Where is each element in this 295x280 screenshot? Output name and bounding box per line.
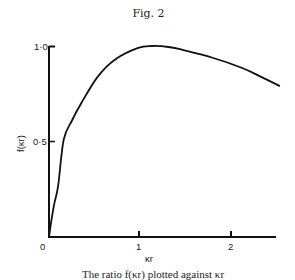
- figure-caption: The ratio f(κr) plotted against κr: [28, 268, 278, 280]
- x-tick-label-0: 0: [40, 241, 45, 252]
- x-axis-label: κr: [145, 253, 153, 264]
- y-tick-label-1: 1·0: [34, 41, 48, 52]
- y-axis-label: f(κr): [15, 135, 26, 152]
- x-tick-label-2: 2: [228, 241, 233, 252]
- data-line-f: [49, 46, 280, 237]
- y-tick-label-0-5: 0·5: [33, 136, 47, 147]
- x-tick-label-1: 1: [136, 241, 141, 252]
